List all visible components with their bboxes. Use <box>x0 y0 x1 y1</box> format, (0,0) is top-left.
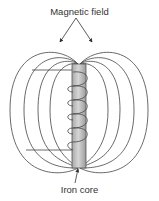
iron-core <box>72 64 86 168</box>
wire-leads <box>26 70 73 150</box>
magnetic-field-label: Magnetic field <box>0 7 159 17</box>
arrow-left-icon <box>60 18 76 42</box>
electromagnet-diagram: Magnetic field Iron core <box>0 0 159 201</box>
iron-core-arrow-icon <box>75 169 78 183</box>
arrow-right-icon <box>76 18 92 42</box>
iron-core-label: Iron core <box>0 185 159 195</box>
magnetic-field-arrows <box>60 18 92 42</box>
field-lines-right <box>80 52 148 172</box>
electromagnet-drawing <box>0 0 159 201</box>
